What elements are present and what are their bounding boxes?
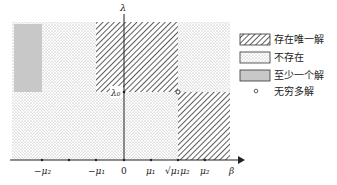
unique-solution-region-lower [178, 92, 230, 160]
lambda-axis-label: λ [119, 2, 126, 13]
legend-swatch-hatch [240, 34, 270, 45]
tick-label-mu2: μ₂ [200, 166, 210, 176]
legend-label-unique: 存在唯一解 [274, 33, 324, 45]
tick-label-zero: 0 [121, 166, 127, 176]
tick-label-mu1: μ₁ [146, 166, 155, 176]
tick-label-neg-mu1: −μ₁ [88, 166, 105, 176]
infinite-solutions-point [176, 90, 180, 94]
solution-region-diagram: λ −μ₂ −μ₁ 0 μ₁ √μ₁μ₂ μ₂ β λ₀ 存在唯一解 不存在 至… [0, 0, 337, 185]
lambda0-label: λ₀ [110, 88, 121, 98]
at-least-one-solution-region [14, 24, 42, 92]
tick-label-neg-mu2: −μ₂ [34, 166, 51, 176]
unique-solution-region-upper [96, 22, 178, 92]
legend-swatch-gray [240, 70, 270, 81]
legend-swatch-dots [240, 52, 270, 63]
legend-label-infinite: 无穷多解 [274, 85, 314, 97]
beta-axis-label: β [228, 166, 234, 176]
legend-circle-icon [254, 89, 258, 93]
legend: 存在唯一解 不存在 至少一个解 无穷多解 [240, 33, 324, 97]
tick-label-sqrt-mu1-mu2: √μ₁μ₂ [165, 166, 190, 176]
lambda0-point [123, 91, 126, 94]
legend-label-none: 不存在 [274, 51, 304, 63]
legend-label-at-least-one: 至少一个解 [274, 69, 324, 81]
beta-axis-arrow-icon [238, 156, 245, 164]
